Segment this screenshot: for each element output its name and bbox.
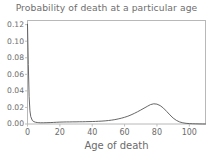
x-tick-label: 40 bbox=[78, 128, 106, 137]
y-tick-label: 0.12 bbox=[0, 20, 24, 29]
x-tick-label: 100 bbox=[175, 128, 203, 137]
x-axis-label: Age of death bbox=[27, 140, 206, 151]
x-tick-label: 80 bbox=[143, 128, 171, 137]
y-tick-label: 0.04 bbox=[0, 86, 24, 95]
plot-frame bbox=[28, 21, 206, 125]
x-tick-label: 60 bbox=[111, 128, 139, 137]
y-tick-label: 0.02 bbox=[0, 103, 24, 112]
y-tick-label: 0.10 bbox=[0, 37, 24, 46]
x-tick-label: 0 bbox=[14, 128, 42, 137]
y-tick-label: 0.06 bbox=[0, 70, 24, 79]
x-tick-label: 20 bbox=[46, 128, 74, 137]
figure-container: Probability of death at a particular age… bbox=[0, 0, 213, 158]
y-tick-label: 0.08 bbox=[0, 53, 24, 62]
